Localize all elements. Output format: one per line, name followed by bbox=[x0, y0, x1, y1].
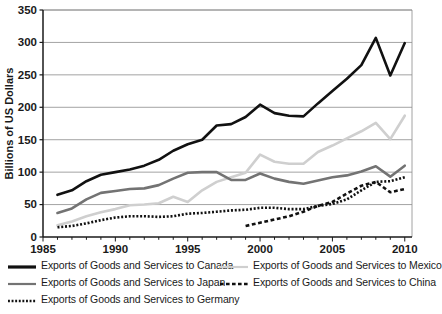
svg-text:150: 150 bbox=[18, 134, 37, 146]
svg-text:300: 300 bbox=[18, 36, 37, 48]
legend-swatch-china bbox=[220, 276, 248, 288]
legend-label-germany: Exports of Goods and Services to Germany bbox=[41, 293, 240, 305]
legend-row-2: Exports of Goods and Services to Japan E… bbox=[0, 273, 423, 290]
legend-label-mexico: Exports of Goods and Services to Mexico bbox=[253, 259, 442, 271]
legend-swatch-canada bbox=[8, 259, 36, 271]
line-chart: 0501001502002503003501985199019952000200… bbox=[0, 0, 423, 256]
svg-text:2005: 2005 bbox=[320, 243, 346, 255]
legend-label-canada: Exports of Goods and Services to Canada bbox=[41, 259, 233, 271]
legend-entry-mexico[interactable]: Exports of Goods and Services to Mexico bbox=[220, 256, 442, 273]
svg-text:350: 350 bbox=[18, 4, 37, 16]
legend-entry-japan[interactable]: Exports of Goods and Services to Japan bbox=[0, 273, 220, 290]
legend-row-1: Exports of Goods and Services to Canada … bbox=[0, 256, 423, 273]
legend-swatch-germany bbox=[8, 293, 36, 305]
legend-label-china: Exports of Goods and Services to China bbox=[253, 276, 436, 288]
svg-text:Billions of US Dollars: Billions of US Dollars bbox=[3, 68, 15, 180]
legend-swatch-japan bbox=[8, 276, 36, 288]
chart-legend: Exports of Goods and Services to Canada … bbox=[0, 256, 423, 314]
svg-text:1990: 1990 bbox=[103, 243, 129, 255]
legend-entry-canada[interactable]: Exports of Goods and Services to Canada bbox=[0, 256, 220, 273]
legend-row-3: Exports of Goods and Services to Germany bbox=[0, 290, 423, 307]
svg-text:0: 0 bbox=[31, 231, 37, 243]
legend-swatch-mexico bbox=[220, 259, 248, 271]
legend-entry-china[interactable]: Exports of Goods and Services to China bbox=[220, 273, 436, 290]
svg-text:1985: 1985 bbox=[30, 243, 56, 255]
legend-label-japan: Exports of Goods and Services to Japan bbox=[41, 276, 225, 288]
svg-text:2010: 2010 bbox=[392, 243, 418, 255]
svg-text:50: 50 bbox=[24, 198, 37, 210]
svg-text:2000: 2000 bbox=[247, 243, 273, 255]
svg-text:1995: 1995 bbox=[175, 243, 201, 255]
legend-entry-germany[interactable]: Exports of Goods and Services to Germany bbox=[0, 290, 240, 307]
svg-text:200: 200 bbox=[18, 101, 37, 113]
svg-text:100: 100 bbox=[18, 166, 37, 178]
svg-text:250: 250 bbox=[18, 69, 37, 81]
